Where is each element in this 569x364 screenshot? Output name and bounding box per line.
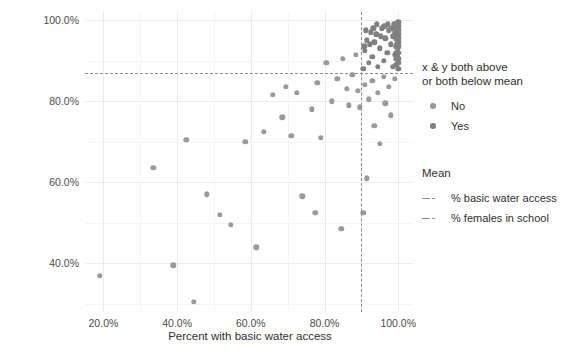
legend-item-no[interactable]: No <box>422 96 567 116</box>
data-point <box>204 192 209 197</box>
data-point <box>375 64 380 69</box>
data-point <box>361 210 366 215</box>
data-point <box>364 176 369 181</box>
x-axis-title: Percent with basic water access <box>85 330 415 342</box>
data-point <box>396 50 401 55</box>
legend-classification-title: x & y both above or both below mean <box>422 60 567 88</box>
data-point <box>243 139 248 144</box>
data-point <box>150 165 155 170</box>
gridline-horizontal-minor <box>85 223 413 224</box>
legend-classification: x & y both above or both below mean No Y… <box>422 60 567 136</box>
gridline-vertical <box>177 12 178 312</box>
gridline-horizontal-minor <box>85 142 413 143</box>
data-point <box>386 84 391 89</box>
data-point <box>366 60 371 65</box>
data-point <box>97 273 102 278</box>
x-tick-label: 100.0% <box>380 317 416 329</box>
data-point <box>228 222 233 227</box>
gridline-vertical-minor <box>214 12 215 312</box>
legend-mean: Mean % basic water access % females in s… <box>422 166 567 228</box>
gridline-horizontal-minor <box>85 61 413 62</box>
data-point <box>388 113 393 118</box>
data-point <box>396 66 401 71</box>
data-point <box>254 244 259 249</box>
data-point <box>300 194 305 199</box>
legend-label-mean-water: % basic water access <box>451 192 557 204</box>
data-point <box>171 263 176 268</box>
x-tick-label: 60.0% <box>236 317 266 329</box>
legend-dot-no-icon <box>422 103 444 108</box>
data-point <box>377 141 382 146</box>
legend-label-no: No <box>451 100 465 112</box>
data-point <box>367 42 372 47</box>
legend-mean-title: Mean <box>422 166 567 180</box>
data-point <box>353 52 358 57</box>
data-point <box>370 54 375 59</box>
legend-title-line-2: or both below mean <box>422 75 523 87</box>
gridline-vertical-minor <box>288 12 289 312</box>
data-point <box>381 58 386 63</box>
data-point <box>329 98 334 103</box>
data-point <box>361 66 366 71</box>
dash-dot-line-school-icon <box>422 218 444 219</box>
y-tick-label: 80.0% <box>49 95 79 107</box>
data-point <box>261 129 266 134</box>
gridline-horizontal <box>85 263 413 264</box>
data-point <box>294 90 299 95</box>
scatter-plot-figure: Percent of school-aged females in school… <box>0 0 569 364</box>
legend-item-mean-school[interactable]: % females in school <box>422 208 567 228</box>
x-tick-label: 80.0% <box>310 317 340 329</box>
legend-label-mean-school: % females in school <box>451 212 549 224</box>
data-point <box>375 90 380 95</box>
data-point <box>318 135 323 140</box>
data-point <box>309 107 314 112</box>
dash-dot-line-water-icon <box>422 198 444 199</box>
plot-panel: 40.0%60.0%80.0%100.0% 20.0%40.0%60.0%80.… <box>85 12 413 312</box>
legend-item-yes[interactable]: Yes <box>422 116 567 136</box>
data-point <box>349 72 354 77</box>
legend-area: x & y both above or both below mean No Y… <box>422 60 567 228</box>
gridline-horizontal <box>85 20 413 21</box>
gridline-horizontal <box>85 182 413 183</box>
data-point <box>384 50 389 55</box>
y-tick-label: 100.0% <box>43 14 79 26</box>
data-point <box>372 123 377 128</box>
data-point <box>324 60 329 65</box>
data-point <box>338 226 343 231</box>
gridline-horizontal-minor <box>85 304 413 305</box>
data-point <box>362 82 367 87</box>
data-point <box>383 36 388 41</box>
gridline-vertical <box>251 12 252 312</box>
data-point <box>381 74 386 79</box>
y-tick-label: 40.0% <box>49 257 79 269</box>
data-point <box>355 88 360 93</box>
data-point <box>370 78 375 83</box>
data-point <box>370 26 375 31</box>
data-point <box>270 92 275 97</box>
legend-label-yes: Yes <box>451 120 469 132</box>
data-point <box>346 103 351 108</box>
y-tick-label: 60.0% <box>49 176 79 188</box>
gridline-vertical <box>103 12 104 312</box>
data-point <box>289 133 294 138</box>
mean-line-basic-water-access <box>361 12 362 312</box>
data-point <box>313 210 318 215</box>
data-point <box>377 46 382 51</box>
legend-title-line-1: x & y both above <box>422 61 508 73</box>
data-point <box>314 80 319 85</box>
legend-dot-yes-icon <box>422 123 444 128</box>
data-point <box>392 76 397 81</box>
data-point <box>383 101 388 106</box>
data-point <box>335 76 340 81</box>
legend-item-mean-water[interactable]: % basic water access <box>422 188 567 208</box>
x-tick-label: 20.0% <box>89 317 119 329</box>
data-point <box>279 115 284 120</box>
x-tick-label: 40.0% <box>162 317 192 329</box>
gridline-vertical <box>325 12 326 312</box>
mean-line-females-in-school <box>85 73 413 74</box>
data-point <box>344 86 349 91</box>
data-point <box>217 212 222 217</box>
gridline-vertical-minor <box>140 12 141 312</box>
gridline-horizontal <box>85 101 413 102</box>
data-point <box>372 40 377 45</box>
